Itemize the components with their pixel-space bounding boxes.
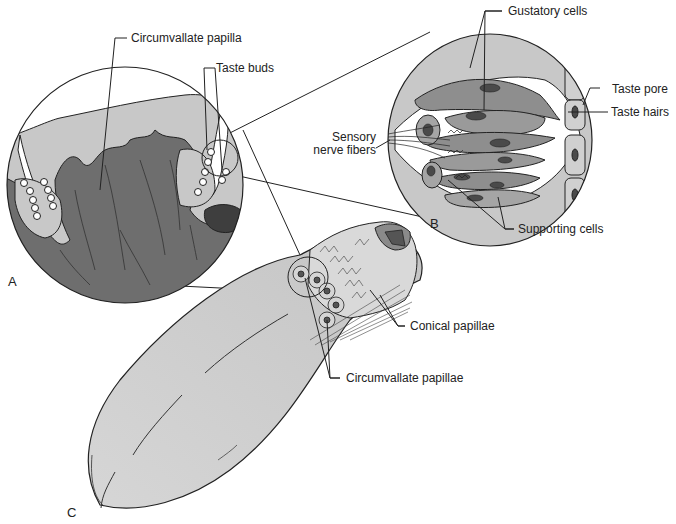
diagram-canvas (0, 0, 676, 524)
label-taste-buds: Taste buds (216, 62, 274, 75)
panel-label-a: A (8, 274, 17, 289)
label-conical-papillae: Conical papillae (410, 320, 495, 333)
label-sensory-line2: nerve fibers (308, 144, 376, 157)
label-taste-pore: Taste pore (612, 83, 668, 96)
label-supporting-cells: Supporting cells (518, 223, 603, 236)
label-gustatory-cells: Gustatory cells (508, 5, 587, 18)
label-circumvallate-papillae: Circumvallate papillae (346, 372, 463, 385)
label-circumvallate-papilla: Circumvallate papilla (131, 32, 242, 45)
papilla-cross-section (0, 60, 260, 310)
label-taste-hairs: Taste hairs (611, 106, 669, 119)
panel-label-b: B (430, 216, 439, 231)
label-sensory-nerve-fibers: Sensory nerve fibers (308, 131, 376, 157)
panel-label-c: C (67, 505, 76, 520)
taste-bud-detail (385, 30, 600, 250)
